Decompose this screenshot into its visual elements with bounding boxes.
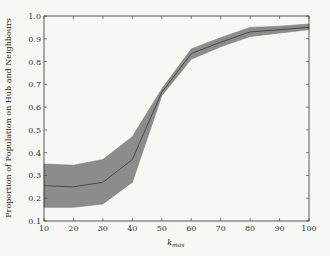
x-tick-label: 60 bbox=[186, 224, 196, 233]
line-chart: 102030405060708090100 0.10.20.30.40.50.6… bbox=[0, 0, 330, 256]
x-tick-label: 40 bbox=[127, 224, 137, 233]
x-tick-label: 70 bbox=[216, 224, 226, 233]
x-tick-label: 30 bbox=[98, 224, 108, 233]
y-tick-label: 1.0 bbox=[28, 12, 41, 21]
y-axis-label: Proportion of Population on Hub and Neig… bbox=[4, 18, 13, 218]
x-tick-label: 20 bbox=[68, 224, 78, 233]
y-tick-label: 0.3 bbox=[28, 171, 41, 180]
x-tick-label: 80 bbox=[245, 224, 255, 233]
y-tick-label: 0.4 bbox=[28, 149, 41, 158]
y-tick-label: 0.9 bbox=[28, 35, 41, 44]
y-tick-label: 0.1 bbox=[28, 217, 41, 226]
y-tick-label: 0.2 bbox=[28, 194, 41, 203]
confidence-band bbox=[44, 24, 309, 207]
x-axis-label: kmax bbox=[167, 238, 185, 248]
band-area bbox=[44, 24, 309, 207]
y-tick-label: 0.5 bbox=[28, 126, 41, 135]
y-tick-label: 0.6 bbox=[28, 103, 41, 112]
x-tick-label: 90 bbox=[274, 224, 284, 233]
x-tick-label: 100 bbox=[301, 224, 316, 233]
y-tick-label: 0.8 bbox=[28, 58, 41, 67]
x-tick-label: 50 bbox=[157, 224, 167, 233]
y-tick-label: 0.7 bbox=[28, 80, 41, 89]
